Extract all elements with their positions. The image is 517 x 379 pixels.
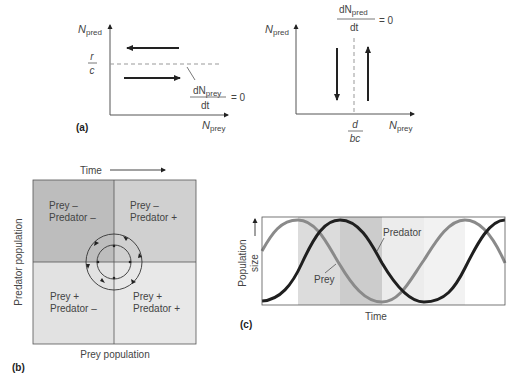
svg-text:Prey +: Prey + <box>50 291 79 302</box>
panel-a-left: Npred r c dNprey dt = 0 Nprey (a) <box>76 23 246 133</box>
svg-text:Predator –: Predator – <box>50 303 97 314</box>
svg-text:size: size <box>249 254 260 272</box>
svg-text:c: c <box>90 65 95 76</box>
svg-text:= 0: = 0 <box>231 92 246 103</box>
svg-text:Prey: Prey <box>314 274 335 285</box>
svg-text:Predator population: Predator population <box>13 218 24 305</box>
svg-text:dt: dt <box>201 100 210 111</box>
svg-text:Predator: Predator <box>383 227 422 238</box>
svg-text:Prey +: Prey + <box>133 291 162 302</box>
svg-text:Time: Time <box>365 311 387 322</box>
svg-text:(b): (b) <box>12 362 25 373</box>
svg-text:Nprey: Nprey <box>202 119 226 133</box>
svg-text:Prey –: Prey – <box>49 200 78 211</box>
panel-a-right: Npred dNpred dt = 0 d bc Nprey <box>265 4 414 144</box>
svg-text:Prey population: Prey population <box>80 349 150 360</box>
svg-text:dt: dt <box>350 22 359 33</box>
svg-text:(a): (a) <box>76 122 88 133</box>
svg-text:Predator +: Predator + <box>130 212 177 223</box>
svg-text:Population: Population <box>237 239 248 286</box>
svg-text:Npred: Npred <box>78 23 102 37</box>
svg-text:Npred: Npred <box>265 23 289 37</box>
svg-text:(c): (c) <box>240 319 252 330</box>
svg-text:Predator –: Predator – <box>49 212 96 223</box>
svg-text:r: r <box>90 51 94 62</box>
panel-c-time-series: Predator Prey Population size Time (c) <box>237 217 505 330</box>
svg-text:= 0: = 0 <box>379 15 394 26</box>
svg-text:d: d <box>352 119 358 130</box>
svg-text:bc: bc <box>350 133 361 144</box>
svg-text:Prey –: Prey – <box>130 200 159 211</box>
svg-text:dNpred: dNpred <box>339 4 368 17</box>
svg-text:Predator +: Predator + <box>133 303 180 314</box>
figure-canvas: Npred r c dNprey dt = 0 Nprey (a) Npred … <box>0 0 517 379</box>
svg-text:dNprey: dNprey <box>193 85 221 98</box>
svg-text:Time: Time <box>80 165 102 176</box>
svg-text:Nprey: Nprey <box>389 119 413 133</box>
panel-b-quadrant-diagram: Time Prey – Predator – Prey – Predator +… <box>12 165 196 373</box>
